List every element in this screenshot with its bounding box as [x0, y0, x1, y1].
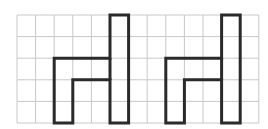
grid-diagram [0, 0, 268, 129]
